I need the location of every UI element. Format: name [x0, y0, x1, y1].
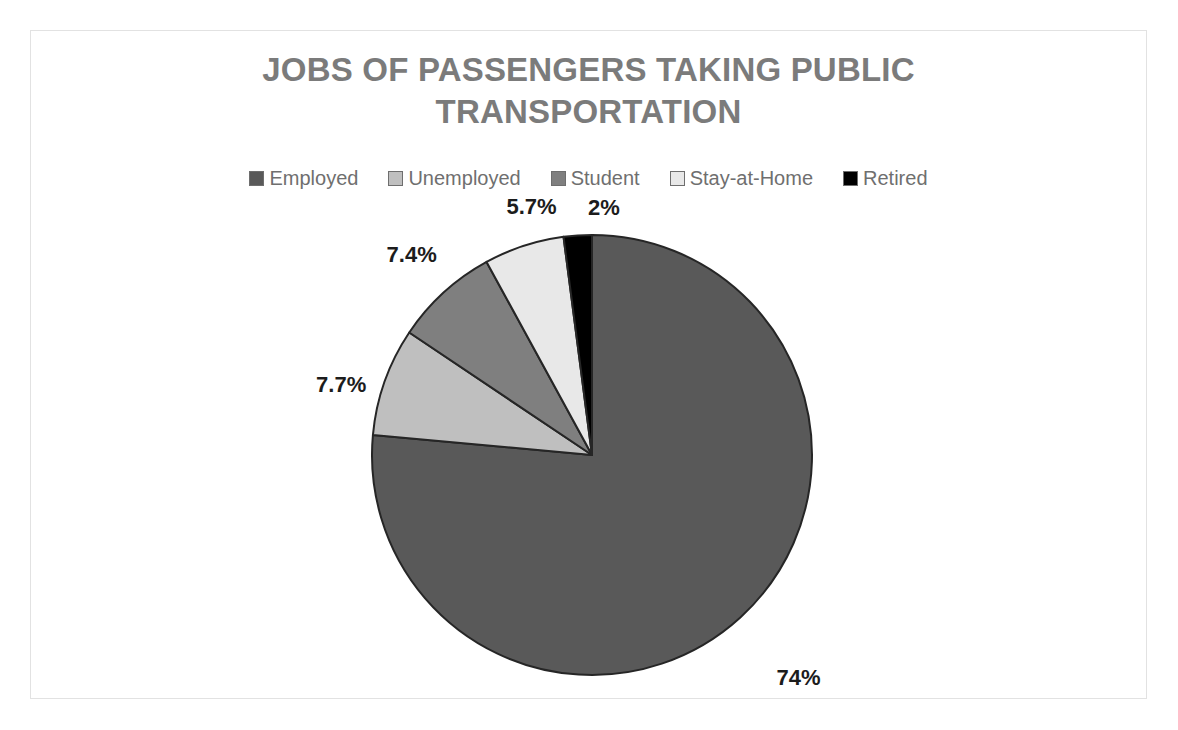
pie-plot-area: 74% 7.7% 7.4% 5.7% 2%	[31, 31, 1146, 698]
slice-label-student: 7.4%	[387, 242, 437, 268]
chart-frame: JOBS OF PASSENGERS TAKING PUBLIC TRANSPO…	[30, 30, 1147, 699]
pie-chart	[31, 31, 1148, 700]
slice-label-employed: 74%	[777, 665, 821, 691]
slice-label-unemployed: 7.7%	[316, 372, 366, 398]
slice-label-retired: 2%	[588, 195, 620, 221]
slice-label-stay-at-home: 5.7%	[507, 194, 557, 220]
